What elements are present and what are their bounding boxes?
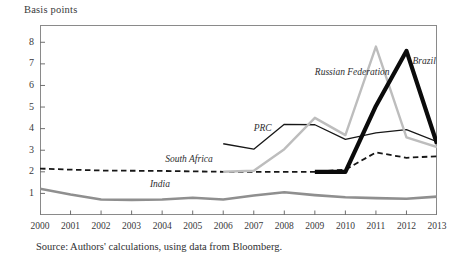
y-axis-title: Basis points [24,4,77,15]
y-tick-label-2: 2 [16,165,34,176]
x-tick-label-2009: 2009 [298,221,332,231]
chart-svg [40,25,437,215]
series-line-south-africa [40,152,437,171]
series-label-prc: PRC [254,123,272,133]
y-tick-label-5: 5 [16,101,34,112]
x-tick-label-2003: 2003 [115,221,149,231]
x-tick-label-2004: 2004 [145,221,179,231]
x-tick-label-2007: 2007 [237,221,271,231]
y-tick-label-1: 1 [16,187,34,198]
series-label-brazil: Brazil [413,56,436,66]
x-tick-label-2013: 2013 [420,221,454,231]
series-line-india [40,189,437,200]
series-line-russian-federation [223,47,437,172]
x-tick-label-2000: 2000 [23,221,57,231]
x-tick-label-2001: 2001 [54,221,88,231]
x-tick-label-2002: 2002 [84,221,118,231]
x-tick-label-2006: 2006 [206,221,240,231]
x-tick-label-2005: 2005 [176,221,210,231]
x-tick-label-2008: 2008 [267,221,301,231]
y-tick-label-6: 6 [16,79,34,90]
y-tick-label-3: 3 [16,144,34,155]
x-tick-label-2010: 2010 [328,221,362,231]
y-tick-label-8: 8 [16,36,34,47]
plot-area [40,25,437,215]
x-tick-label-2011: 2011 [359,221,393,231]
y-tick-label-7: 7 [16,57,34,68]
series-label-india: India [150,179,170,189]
x-tick-label-2012: 2012 [389,221,423,231]
series-label-russian-federation: Russian Federation [315,67,390,77]
figure-container: Basis points 12345678 200020012002200320… [0,0,459,267]
source-note: Source: Authors' calculations, using dat… [36,241,282,252]
series-label-south-africa: South Africa [165,154,213,164]
y-tick-label-4: 4 [16,122,34,133]
